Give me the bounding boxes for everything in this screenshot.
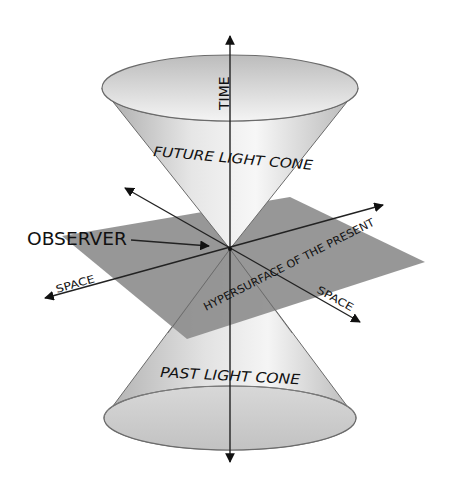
- diagram-canvas: TIME FUTURE LIGHT CONE PAST LIGHT CONE O…: [0, 0, 453, 481]
- light-cone-diagram: TIME FUTURE LIGHT CONE PAST LIGHT CONE O…: [0, 0, 453, 481]
- observer-label: OBSERVER: [27, 229, 127, 249]
- space-left-label: SPACE: [54, 272, 96, 295]
- time-axis-label: TIME: [216, 76, 232, 111]
- observer-point: [228, 247, 232, 251]
